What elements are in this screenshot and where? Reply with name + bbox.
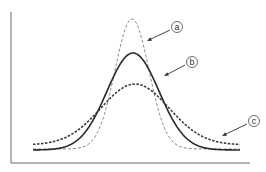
arrow-a [151,30,170,39]
curve-label-b: b [189,57,194,67]
curve-label-a: a [174,22,179,32]
arrow-b [168,65,185,74]
arrow-c [226,124,247,134]
curve-c [33,84,240,144]
curve-label-c: c [252,116,257,126]
distribution-diagram: abc [0,0,266,172]
curve-b [33,53,240,150]
